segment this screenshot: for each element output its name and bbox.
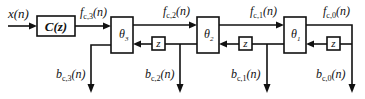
svg-text:C(z): C(z) — [45, 19, 67, 34]
arrow-left-icon — [133, 41, 141, 48]
backward-output-c1: bc,1(n) — [231, 44, 271, 93]
lattice-stage-theta3: θ3 — [111, 17, 133, 53]
lattice-diagram: x(n) C(z) fc,3(n) θ3 bc,3(n) fc,2(n) — [0, 0, 365, 99]
svg-text:fc,3(n): fc,3(n) — [80, 5, 107, 21]
svg-text:fc,0(n): fc,0(n) — [323, 4, 350, 20]
svg-text:z: z — [330, 37, 336, 49]
delay-block-2: z — [219, 37, 284, 50]
input-signal: x(n) — [7, 6, 37, 30]
forward-signal-c3: fc,3(n) — [75, 5, 111, 30]
backward-output-c0: bc,0(n) — [316, 67, 346, 83]
svg-text:fc,1(n): fc,1(n) — [250, 4, 277, 20]
forward-signal-c2: fc,2(n) — [133, 4, 197, 29]
forward-signal-c1: fc,1(n) — [219, 4, 284, 29]
lattice-stage-theta2: θ2 — [197, 17, 219, 53]
lattice-stage-theta1: θ1 — [284, 17, 306, 53]
delay-block-3: z — [306, 37, 352, 50]
prefilter-block: C(z) — [37, 16, 75, 36]
svg-text:bc,0(n): bc,0(n) — [316, 67, 346, 83]
svg-text:z: z — [242, 37, 248, 49]
backward-output-c3: bc,3(n) — [56, 45, 111, 93]
svg-text:z: z — [155, 37, 161, 49]
backward-output-c2: bc,2(n) — [145, 44, 184, 93]
delay-block-1: z — [133, 37, 197, 50]
arrow-right-icon — [29, 23, 37, 30]
svg-text:bc,3(n): bc,3(n) — [56, 67, 86, 83]
svg-text:bc,2(n): bc,2(n) — [145, 67, 175, 83]
svg-text:fc,2(n): fc,2(n) — [163, 4, 190, 20]
input-label: x(n) — [7, 6, 29, 21]
svg-text:bc,1(n): bc,1(n) — [231, 67, 261, 83]
